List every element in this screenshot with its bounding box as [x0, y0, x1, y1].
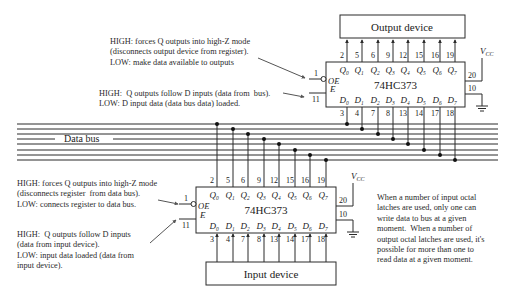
top-latch-q-pin-number: 9 — [386, 51, 390, 60]
junction-dot — [262, 137, 266, 141]
top-latch-d-pin-number: 3 — [340, 109, 344, 118]
side-note: When a number of input octal latches are… — [377, 193, 484, 266]
top-latch-gnd-pin-number: 10 — [468, 84, 476, 93]
bottom-latch-d-label: D6 — [301, 221, 312, 232]
top-latch-q-pin-number: 15 — [415, 51, 423, 60]
top-latch-q-label: Q4 — [400, 65, 410, 76]
junction-dot — [345, 122, 349, 126]
top-latch-q-label: Q5 — [416, 65, 426, 76]
junction-dot — [360, 127, 364, 131]
bottom-latch-d-label: D0 — [208, 221, 219, 232]
top-latch-d-pin-number: 4 — [355, 109, 359, 118]
top-e-pointer — [283, 93, 304, 97]
junction-dot — [246, 132, 250, 136]
junction-dot — [376, 132, 380, 136]
bottom-latch-d-pin-number: 17 — [301, 235, 309, 244]
junction-dot — [308, 153, 312, 157]
junction-dot — [422, 148, 426, 152]
top-latch-q-pin-number: 6 — [371, 51, 375, 60]
bottom-latch-oe-bubble — [191, 202, 196, 207]
bottom-latch-q-label: Q1 — [225, 190, 235, 201]
top-latch-d-label: D2 — [369, 95, 380, 106]
bottom-latch-q-label: Q0 — [209, 190, 219, 201]
bottom-latch-gnd-pin-number: 10 — [339, 210, 347, 219]
bottom-latch-vcc-label: VCC — [351, 171, 366, 182]
bottom-latch-q-pin-number: 16 — [301, 176, 309, 185]
bottom-latch-q-pin-number: 19 — [317, 176, 325, 185]
junction-dot — [391, 137, 395, 141]
top-latch-d-pin-number: 8 — [386, 109, 390, 118]
input-device-label: Input device — [244, 268, 299, 280]
junction-dot — [453, 158, 457, 162]
bottom-latch-q-label: Q7 — [318, 190, 328, 201]
top-latch-d-label: D6 — [431, 95, 442, 106]
bottom-latch-q-pin-number: 12 — [270, 176, 278, 185]
bottom-latch-e-label: E — [199, 210, 206, 220]
top-latch-e-label: E — [329, 84, 336, 94]
junction-dot — [406, 142, 410, 146]
top-latch-d-label: D5 — [415, 95, 426, 106]
top-latch-q-pin-number: 12 — [399, 51, 407, 60]
top-latch-q-pin-number: 19 — [446, 51, 454, 60]
top-latch-d-pin-number: 7 — [371, 109, 375, 118]
top-latch-q-label: Q7 — [447, 65, 457, 76]
bottom-latch-d-pin-number: 4 — [226, 235, 230, 244]
top-latch-q-pin-number: 16 — [431, 51, 439, 60]
bottom-latch-q-pin-number: 9 — [257, 176, 261, 185]
top-latch-d-pin-number: 13 — [399, 109, 407, 118]
top-latch-d-pin-number: 18 — [446, 109, 454, 118]
bottom-latch-q-pin-number: 5 — [226, 176, 230, 185]
top-latch-q-pin-number: 2 — [340, 51, 344, 60]
top-latch-e-pin-number: 11 — [312, 95, 320, 104]
bottom-latch-d-pin-number: 3 — [210, 235, 214, 244]
bottom-latch-d-label: D7 — [317, 221, 328, 232]
top-latch-d-label: D7 — [446, 95, 457, 106]
top-oe-note: HIGH: forces Q outputs into high-Z mode … — [110, 37, 250, 68]
bottom-latch-oe-pin-number: 1 — [184, 194, 188, 203]
bottom-latch-d-label: D1 — [224, 221, 235, 232]
bottom-latch-d-label: D3 — [255, 221, 266, 232]
bottom-latch-q-label: Q4 — [271, 190, 281, 201]
top-latch-oe-bubble — [321, 77, 326, 82]
data-bus-label: Data bus — [64, 133, 99, 144]
bottom-latch-d-pin-number: 8 — [257, 235, 261, 244]
top-latch-d-pin-number: 14 — [415, 109, 423, 118]
bottom-latch-d-pin-number: 14 — [286, 235, 294, 244]
bottom-latch-q-pin-number: 6 — [241, 176, 245, 185]
bottom-latch-d-label: D5 — [286, 221, 297, 232]
bottom-latch-d-label: D2 — [239, 221, 250, 232]
junction-dot — [324, 158, 328, 162]
bottom-latch-e-pin-number: 11 — [182, 221, 190, 230]
bottom-oe-note: HIGH: forces Q outputs into high-Z mode … — [17, 179, 157, 210]
junction-dot — [293, 148, 297, 152]
bottom-latch-q-label: Q5 — [287, 190, 297, 201]
junction-dot — [231, 127, 235, 131]
junction-dot — [438, 153, 442, 157]
top-latch-d-label: D0 — [338, 95, 349, 106]
bottom-latch-d-pin-number: 18 — [317, 235, 325, 244]
top-oe-pointer — [258, 58, 305, 78]
bottom-latch-d-pin-number: 7 — [241, 235, 245, 244]
top-latch-oe-pin-number: 1 — [314, 69, 318, 78]
top-e-note: HIGH: Q outputs follow D inputs (data fr… — [99, 89, 270, 110]
bottom-latch-q-label: Q3 — [256, 190, 266, 201]
junction-dot — [215, 122, 219, 126]
bottom-e-note: HIGH: Q outputs follow D inputs (data fr… — [17, 230, 134, 272]
bottom-oe-pointer — [158, 200, 178, 204]
bottom-e-pointer — [150, 220, 176, 243]
top-latch-q-label: Q2 — [370, 65, 380, 76]
top-latch-q-label: Q3 — [385, 65, 395, 76]
top-latch-vcc-pin-number: 20 — [468, 71, 476, 80]
bottom-latch-vcc-pin-number: 20 — [339, 196, 347, 205]
top-latch-q-label: Q6 — [432, 65, 442, 76]
bottom-latch-d-label: D4 — [270, 221, 281, 232]
top-latch-d-pin-number: 17 — [431, 109, 439, 118]
junction-dot — [277, 142, 281, 146]
top-latch-vcc-label: VCC — [480, 46, 495, 57]
bottom-latch-d-pin-number: 13 — [270, 235, 278, 244]
top-latch-q-label: Q1 — [354, 65, 364, 76]
top-latch-d-label: D4 — [399, 95, 410, 106]
bottom-latch-part-number: 74HC373 — [245, 204, 288, 216]
bottom-latch-q-pin-number: 15 — [286, 176, 294, 185]
output-device-label: Output device — [371, 21, 433, 33]
